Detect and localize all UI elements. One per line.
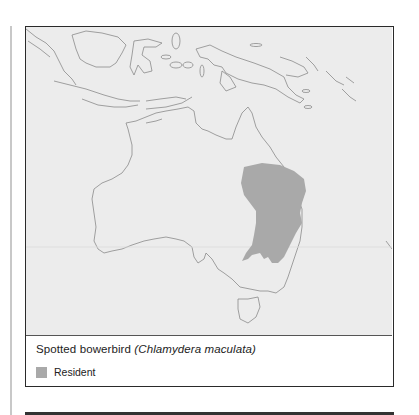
map-caption: Spotted bowerbird (Chlamydera maculata) [36, 343, 256, 355]
species-common-name: Spotted bowerbird [36, 343, 131, 355]
coast-borneo [72, 31, 126, 67]
coast-java [54, 81, 140, 101]
coast-new-guinea [196, 45, 304, 103]
coast-sulawesi [130, 39, 162, 75]
map-svg [26, 27, 392, 335]
coast-sumatra [26, 29, 76, 85]
side-rule [10, 26, 12, 415]
coastlines [26, 29, 392, 323]
coast-tasmania [238, 297, 260, 323]
range-map-figure: Spotted bowerbird (Chlamydera maculata) … [25, 26, 394, 387]
legend-swatch-resident [36, 367, 47, 378]
coast-nz-fragment [386, 241, 392, 249]
legend-label-resident: Resident [54, 366, 95, 378]
resident-range-area [241, 163, 306, 263]
map-legend: Resident [36, 366, 95, 378]
range-map [26, 27, 392, 336]
species-scientific-name: (Chlamydera maculata) [134, 343, 256, 355]
